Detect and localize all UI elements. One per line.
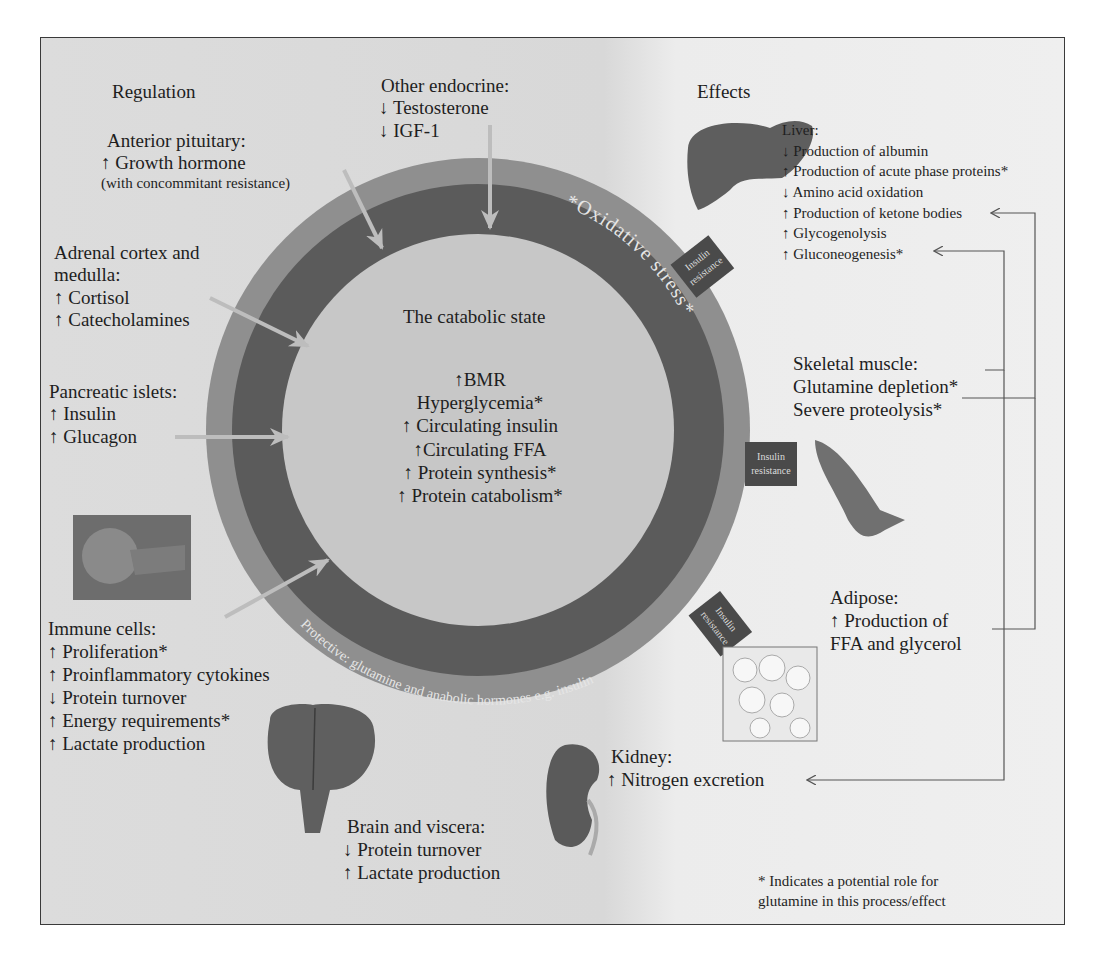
liver-item: ↑ Glycogenolysis: [782, 223, 1008, 244]
footnote-line: glutamine in this process/effect: [758, 892, 946, 912]
kidney-title: Kidney:: [607, 745, 764, 768]
immune-item: ↑ Energy requirements*: [48, 710, 270, 733]
other-endocrine-block: Other endocrine: ↓ Testosterone ↓ IGF-1: [381, 75, 509, 142]
skeletal-muscle-item: Glutamine depletion*: [793, 375, 958, 398]
brain-block: Brain and viscera: ↓ Protein turnover ↑ …: [343, 815, 500, 885]
skeletal-muscle-image: [815, 440, 905, 537]
footnote: * Indicates a potential role for glutami…: [758, 872, 946, 911]
effects-title: Effects: [697, 81, 750, 103]
line-to-kidney: [808, 370, 1004, 780]
adipose-item: FFA and glycerol: [830, 632, 962, 655]
liver-title: Liver:: [782, 120, 1008, 141]
pancreatic-title: Pancreatic islets:: [49, 381, 177, 403]
pancreatic-item: ↑ Glucagon: [49, 426, 177, 448]
immune-title: Immune cells:: [48, 618, 270, 641]
immune-cell-micrograph: [73, 515, 191, 600]
brain-title: Brain and viscera:: [343, 815, 500, 838]
liver-item: ↓ Amino acid oxidation: [782, 182, 1008, 203]
other-endocrine-item: ↓ IGF-1: [379, 120, 509, 142]
kidney-block: Kidney: ↑ Nitrogen excretion: [607, 745, 764, 791]
anterior-pituitary-item: ↑ Growth hormone: [101, 152, 290, 174]
kidney-item: ↑ Nitrogen excretion: [607, 768, 764, 791]
center-item: ↑ Circulating insulin: [380, 414, 580, 437]
liver-item: ↑ Production of ketone bodies: [782, 203, 1008, 224]
adrenal-title-1: Adrenal cortex and: [54, 242, 200, 264]
adipose-block: Adipose: ↑ Production of FFA and glycero…: [830, 586, 962, 656]
regulation-title: Regulation: [112, 81, 195, 103]
immune-item: ↑ Proliferation*: [48, 641, 270, 664]
anterior-pituitary-note: (with concommitant resistance): [101, 175, 290, 193]
pancreatic-block: Pancreatic islets: ↑ Insulin ↑ Glucagon: [49, 381, 177, 448]
pancreatic-item: ↑ Insulin: [49, 403, 177, 425]
skeletal-muscle-item: Severe proteolysis*: [793, 398, 958, 421]
center-item: ↑ Protein catabolism*: [380, 484, 580, 507]
svg-text:Insulin: Insulin: [757, 451, 785, 462]
skeletal-muscle-title: Skeletal muscle:: [793, 352, 958, 375]
brain-item: ↑ Lactate production: [343, 861, 500, 884]
adipose-title: Adipose:: [830, 586, 962, 609]
line-adipose: [992, 398, 1035, 629]
immune-item: ↑ Lactate production: [48, 733, 270, 756]
immune-block: Immune cells: ↑ Proliferation* ↑ Proinfl…: [48, 618, 270, 756]
svg-text:resistance: resistance: [751, 465, 791, 476]
anterior-pituitary-title: Anterior pituitary:: [101, 130, 290, 152]
adrenal-block: Adrenal cortex and medulla: ↑ Cortisol ↑…: [54, 242, 200, 332]
brain-image: [268, 704, 375, 833]
adipose-tissue-micrograph: [723, 647, 817, 741]
center-item: ↑BMR: [380, 368, 580, 391]
center-item: ↑ Protein synthesis*: [380, 461, 580, 484]
adrenal-title-2: medulla:: [54, 264, 200, 286]
immune-item: ↑ Proinflammatory cytokines: [48, 664, 270, 687]
adipose-item: ↑ Production of: [830, 609, 962, 632]
catabolic-state-title: The catabolic state: [403, 306, 545, 328]
liver-item: ↓ Production of albumin: [782, 141, 1008, 162]
insulin-resistance-tag-muscle: Insulin resistance: [745, 442, 797, 486]
center-item: Hyperglycemia*: [380, 391, 580, 414]
liver-item: ↑ Production of acute phase proteins*: [782, 161, 1008, 182]
other-endocrine-item: ↓ Testosterone: [379, 97, 509, 119]
catabolic-state-list: ↑BMR Hyperglycemia* ↑ Circulating insuli…: [380, 368, 580, 507]
adrenal-item: ↑ Cortisol: [54, 287, 200, 309]
immune-item: ↓ Protein turnover: [48, 687, 270, 710]
footnote-line: * Indicates a potential role for: [758, 872, 946, 892]
liver-block: Liver: ↓ Production of albumin ↑ Product…: [782, 120, 1008, 265]
brain-item: ↓ Protein turnover: [343, 838, 500, 861]
kidney-image: [546, 744, 599, 855]
anterior-pituitary-block: Anterior pituitary: ↑ Growth hormone (wi…: [101, 130, 290, 193]
center-item: ↑Circulating FFA: [380, 438, 580, 461]
liver-item: ↑ Gluconeogenesis*: [782, 244, 1008, 265]
skeletal-muscle-block: Skeletal muscle: Glutamine depletion* Se…: [793, 352, 958, 422]
adrenal-item: ↑ Catecholamines: [54, 309, 200, 331]
other-endocrine-title: Other endocrine:: [381, 75, 509, 97]
